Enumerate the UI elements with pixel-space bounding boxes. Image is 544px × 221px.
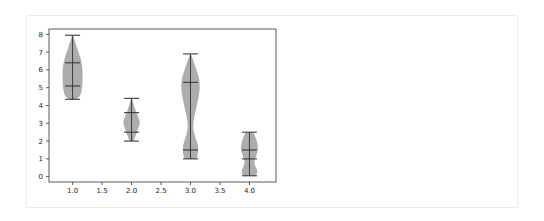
violin-4	[241, 132, 258, 176]
violin-3	[181, 54, 199, 159]
violin-plot: 012345678 1.01.52.02.53.03.54.0	[0, 0, 544, 221]
y-tick-label: 2	[39, 138, 43, 146]
x-tick-label: 1.0	[67, 187, 78, 195]
y-tick-label: 6	[39, 66, 44, 74]
y-axis: 012345678	[39, 31, 49, 181]
x-tick-label: 2.0	[126, 187, 137, 195]
y-tick-label: 0	[39, 173, 43, 181]
y-tick-label: 4	[39, 102, 44, 110]
y-tick-label: 7	[39, 49, 43, 57]
x-tick-label: 1.5	[96, 187, 107, 195]
x-axis: 1.01.52.02.53.03.54.0	[67, 182, 255, 195]
violins-group	[63, 35, 258, 176]
plot-frame	[49, 29, 276, 182]
y-tick-label: 1	[39, 155, 43, 163]
y-tick-label: 5	[39, 84, 43, 92]
y-tick-label: 8	[39, 31, 43, 39]
x-tick-label: 3.5	[214, 187, 225, 195]
violin-1	[63, 35, 83, 99]
y-tick-label: 3	[39, 120, 43, 128]
violin-2	[123, 98, 140, 141]
x-tick-label: 4.0	[244, 187, 255, 195]
x-tick-label: 2.5	[155, 187, 166, 195]
x-tick-label: 3.0	[185, 187, 196, 195]
